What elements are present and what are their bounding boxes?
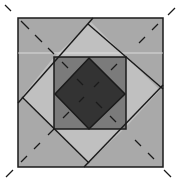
dash [5,5,11,11]
diagram [0,0,186,185]
dash [6,170,13,177]
dash [164,170,171,177]
dash [168,8,175,15]
